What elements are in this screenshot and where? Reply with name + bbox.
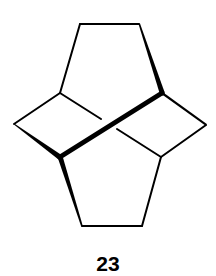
wedge-bond-top-right-edge — [139, 24, 165, 95]
chemical-structure-diagram — [0, 0, 216, 276]
wedge-bond-upper-right-outer — [161, 91, 207, 127]
atom-lower-left-junction — [57, 154, 62, 159]
atom-upper-left-junction — [59, 92, 61, 94]
bond-bottom-right-edge — [142, 157, 161, 226]
bond-lower-right-outer — [161, 125, 206, 157]
bond-upper-left-outer — [14, 93, 60, 124]
bond-top-left-edge — [60, 24, 80, 93]
compound-number-label: 23 — [0, 252, 216, 276]
bond-diagonal-back-segment-2 — [117, 129, 161, 157]
wedge-bond-bottom-left-edge — [58, 156, 83, 226]
atom-lower-right-junction — [160, 156, 162, 158]
atom-upper-right-junction — [159, 90, 164, 95]
wedge-bond-lower-left-outer — [14, 123, 62, 160]
bond-diagonal-back-segment-1 — [60, 93, 101, 119]
